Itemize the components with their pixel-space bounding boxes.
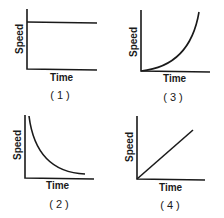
graph-2-axes xyxy=(25,115,94,179)
graph-4-curve xyxy=(137,130,193,179)
graph-3-caption: ( 3 ) xyxy=(153,91,193,103)
graph-1-xlabel: Time xyxy=(50,72,73,83)
graph-3-axes xyxy=(141,10,210,72)
graphs-canvas xyxy=(0,0,224,218)
graph-4-xlabel: Time xyxy=(159,182,182,193)
graph-3-ylabel: Speed xyxy=(128,27,139,57)
graph-2-caption: ( 2 ) xyxy=(39,198,79,210)
graph-1-axes xyxy=(27,9,97,70)
graph-2-ylabel: Speed xyxy=(12,130,23,160)
graph-1-ylabel: Speed xyxy=(14,24,25,54)
graph-3-xlabel: Time xyxy=(163,73,186,84)
graph-4-ylabel: Speed xyxy=(124,132,135,162)
graph-4-caption: ( 4 ) xyxy=(150,199,190,211)
graph-2-xlabel: Time xyxy=(46,180,69,191)
graph-1-curve xyxy=(27,22,97,23)
graph-2-curve xyxy=(29,116,85,174)
graph-3-curve xyxy=(141,12,199,71)
graph-1-caption: ( 1 ) xyxy=(40,89,80,101)
